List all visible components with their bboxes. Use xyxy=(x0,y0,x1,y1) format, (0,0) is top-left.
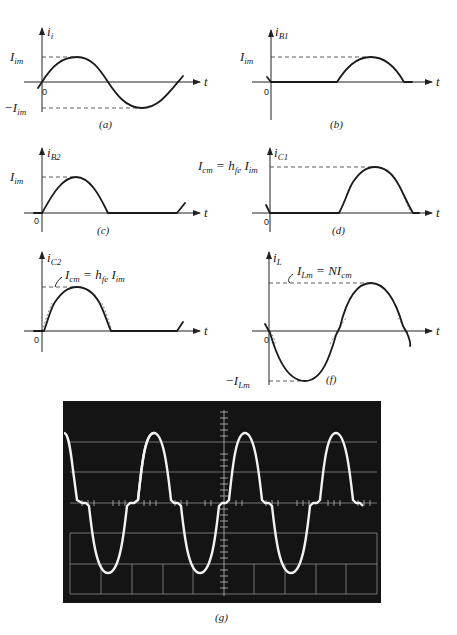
origin-label: 0 xyxy=(264,87,269,97)
ideal-curve-guide xyxy=(102,303,112,331)
panel-caption: (d) xyxy=(332,224,345,237)
y-axis-label: ii xyxy=(47,24,54,41)
base-current-b1-curve xyxy=(267,57,412,82)
peak-level-label: Iim xyxy=(239,49,254,66)
figure-canvas: ii t 0 Iim −Iim (a) iB1 t 0 Iim (b) iB2 … xyxy=(0,0,457,635)
panel-caption: (a) xyxy=(99,118,112,131)
panel-b: iB1 t 0 Iim (b) xyxy=(239,24,440,131)
collector-current-c1-curve xyxy=(266,167,419,213)
x-axis-label: t xyxy=(204,205,208,220)
x-axis-label: t xyxy=(204,74,208,89)
origin-label: 0 xyxy=(34,216,39,226)
x-axis-label: t xyxy=(436,74,440,89)
annotation-leader xyxy=(55,277,62,287)
panel-f: iL t 0 ILm = NIcm −ILm (f) xyxy=(225,250,440,390)
trough-level-label: −ILm xyxy=(225,373,250,390)
origin-label: 0 xyxy=(42,87,47,97)
crossover-guide xyxy=(398,318,410,346)
base-current-b2-curve xyxy=(34,177,185,213)
origin-label: 0 xyxy=(264,217,269,227)
panel-caption: (b) xyxy=(330,118,343,131)
origin-label: 0 xyxy=(264,335,269,345)
peak-annotation: Icm = hfe Iim xyxy=(197,158,258,175)
annotation-leader xyxy=(289,274,293,283)
trough-level-label: −Iim xyxy=(4,100,27,117)
y-axis-label: iC2 xyxy=(47,250,62,267)
panel-c: iB2 t 0 Iim (c) xyxy=(9,145,208,237)
x-axis-label: t xyxy=(204,323,208,338)
peak-level-label: Iim xyxy=(9,49,24,66)
panel-caption: (f) xyxy=(326,373,337,386)
x-axis-label: t xyxy=(436,205,440,220)
peak-level-label: Iim xyxy=(9,169,24,186)
panel-a: ii t 0 Iim −Iim (a) xyxy=(4,24,208,131)
panel-g-oscilloscope xyxy=(63,401,381,603)
ideal-curve-guide xyxy=(42,303,52,331)
y-axis-label: iC1 xyxy=(274,145,288,162)
panel-caption: (c) xyxy=(97,224,110,237)
peak-annotation: Icm = hfe Iim xyxy=(64,267,125,284)
peak-annotation: ILm = NIcm xyxy=(296,263,352,280)
y-axis-label: iB1 xyxy=(275,24,289,41)
x-axis-label: t xyxy=(436,323,440,338)
y-axis-label: iB2 xyxy=(47,145,61,162)
y-axis-label: iL xyxy=(273,250,282,267)
panel-d: iC1 t 0 Icm = hfe Iim (d) xyxy=(197,145,440,237)
collector-current-c2-curve xyxy=(34,287,183,331)
panel-e: iC2 t 0 Icm = hfe Iim xyxy=(24,250,208,352)
panel-caption-g: (g) xyxy=(215,611,228,624)
origin-label: 0 xyxy=(34,335,39,345)
load-current-curve xyxy=(265,283,410,381)
